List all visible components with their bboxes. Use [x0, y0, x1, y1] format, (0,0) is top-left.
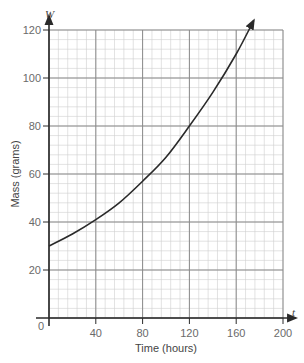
x-tick-label: 120: [180, 327, 198, 339]
y-tick-label: 40: [29, 216, 41, 228]
y-tick-label: 120: [23, 24, 41, 36]
axis-ticks: 204060801001204080120160200: [23, 24, 293, 339]
y-variable-label: W: [45, 8, 55, 20]
y-axis-title: Mass (grams): [9, 140, 21, 207]
y-tick-label: 80: [29, 120, 41, 132]
x-tick-label: 160: [227, 327, 245, 339]
x-variable-label: t: [292, 306, 296, 318]
y-tick-label: 100: [23, 72, 41, 84]
y-tick-label: 60: [29, 168, 41, 180]
y-tick-label: 20: [29, 264, 41, 276]
grid-major-lines: [49, 30, 283, 318]
x-tick-label: 200: [274, 327, 292, 339]
origin-label: 0: [38, 320, 44, 332]
x-tick-label: 40: [90, 327, 102, 339]
x-axis-title: Time (hours): [135, 342, 197, 354]
exponential-growth-chart: 204060801001204080120160200 W t 0 Mass (…: [0, 0, 304, 363]
x-tick-label: 80: [136, 327, 148, 339]
